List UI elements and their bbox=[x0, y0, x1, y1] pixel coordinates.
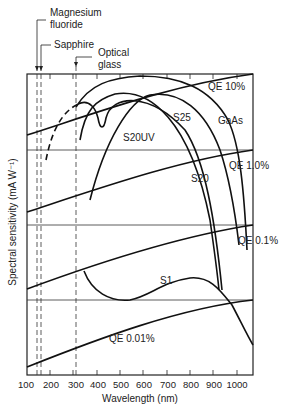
x-axis-label: Wavelength (nm) bbox=[102, 393, 178, 404]
s20uv-uv-extension bbox=[46, 104, 78, 160]
x-tick-1000: 1000 bbox=[226, 379, 247, 390]
qe-0.1-label: QE 0.1% bbox=[238, 235, 278, 246]
mgf-label-2: fluoride bbox=[50, 19, 83, 30]
x-tick-800: 800 bbox=[183, 379, 199, 390]
x-tick-200: 200 bbox=[43, 379, 59, 390]
x-tick-500: 500 bbox=[113, 379, 129, 390]
qe-1-line bbox=[27, 150, 253, 212]
x-tick-400: 400 bbox=[90, 379, 106, 390]
s20uv-label: S20UV bbox=[123, 132, 155, 143]
qe-1-label: QE 1.0% bbox=[229, 160, 269, 171]
x-tick-300: 300 bbox=[68, 379, 84, 390]
gaas-label: GaAs bbox=[218, 115, 243, 126]
spectral-sensitivity-chart: Magnesium fluoride Sapphire Optical glas… bbox=[0, 0, 291, 411]
s25-label: S25 bbox=[173, 112, 191, 123]
mgf-label-1: Magnesium bbox=[50, 7, 102, 18]
qe-10-label: QE 10% bbox=[208, 81, 245, 92]
y-axis-label: Spectral sensitivity (mA W⁻¹) bbox=[7, 158, 18, 285]
x-tick-700: 700 bbox=[160, 379, 176, 390]
x-tick-labels: 100 200 300 400 500 600 700 800 900 1000 bbox=[18, 379, 248, 390]
s1-label: S1 bbox=[160, 275, 173, 286]
qe-0.01-label: QE 0.01% bbox=[109, 333, 155, 344]
glass-label-1: Optical bbox=[98, 47, 129, 58]
cutoff-arrows bbox=[35, 62, 78, 71]
s20uv-curve bbox=[78, 101, 222, 290]
glass-label-2: glass bbox=[98, 59, 121, 70]
x-tick-600: 600 bbox=[136, 379, 152, 390]
s20-label: S20 bbox=[191, 173, 209, 184]
window-cutoff-lines bbox=[37, 66, 76, 375]
x-tick-100: 100 bbox=[18, 379, 34, 390]
sapphire-label: Sapphire bbox=[54, 39, 94, 50]
s20-curve bbox=[80, 93, 219, 290]
x-tick-900: 900 bbox=[206, 379, 222, 390]
